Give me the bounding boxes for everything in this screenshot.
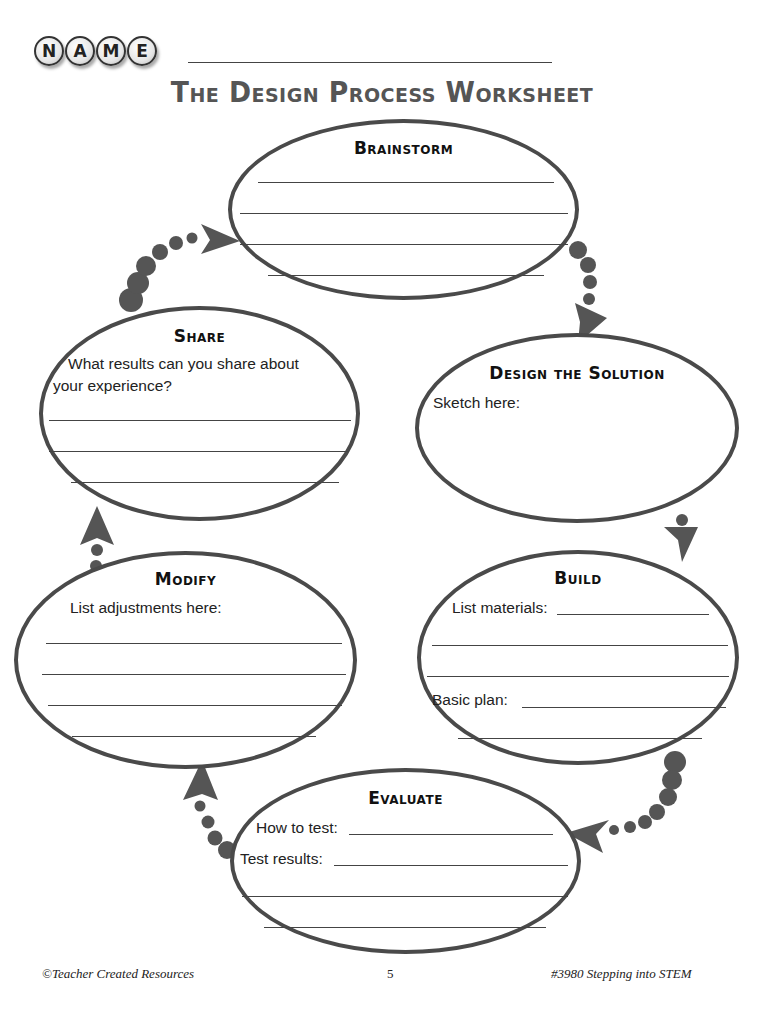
write-line[interactable] bbox=[48, 705, 342, 706]
write-line[interactable] bbox=[258, 182, 554, 183]
write-line[interactable] bbox=[72, 736, 316, 737]
bubble-title-modify: Modify bbox=[18, 569, 353, 589]
name-letter-m: M bbox=[96, 36, 126, 66]
name-letter-e: E bbox=[127, 36, 157, 66]
materials-line[interactable] bbox=[557, 614, 709, 615]
build-materials-label: List materials: bbox=[452, 599, 548, 617]
arrow-design-to-build-icon bbox=[664, 514, 698, 562]
bubble-brainstorm: Brainstorm bbox=[228, 119, 579, 300]
arrow-build-to-evaluate-icon bbox=[566, 751, 686, 853]
sketch-area[interactable] bbox=[439, 417, 719, 507]
bubble-title-build: Build bbox=[421, 568, 735, 588]
arrow-brainstorm-to-design-icon bbox=[569, 241, 607, 343]
write-line[interactable] bbox=[432, 645, 728, 646]
write-line[interactable] bbox=[427, 676, 729, 677]
write-line[interactable] bbox=[240, 244, 568, 245]
footer-book-title: #3980 Stepping into STEM bbox=[551, 966, 691, 982]
build-plan-label: Basic plan: bbox=[432, 691, 508, 709]
name-field-line[interactable] bbox=[188, 62, 552, 63]
write-line[interactable] bbox=[268, 275, 544, 276]
write-line[interactable] bbox=[264, 927, 546, 928]
bubble-title-design: Design the Solution bbox=[419, 363, 735, 383]
write-line[interactable] bbox=[49, 420, 351, 421]
write-line[interactable] bbox=[71, 482, 339, 483]
write-line[interactable] bbox=[42, 674, 346, 675]
bubble-share: Share What results can you share about y… bbox=[39, 306, 360, 521]
plan-line[interactable] bbox=[522, 707, 726, 708]
evaluate-results-label: Test results: bbox=[240, 850, 323, 868]
arrow-share-to-brainstorm-icon bbox=[119, 224, 240, 312]
test-results-line[interactable] bbox=[334, 865, 568, 866]
bubble-title-share: Share bbox=[43, 326, 356, 346]
how-to-test-line[interactable] bbox=[349, 834, 553, 835]
write-line[interactable] bbox=[242, 896, 568, 897]
footer-page-number: 5 bbox=[387, 966, 394, 982]
name-letter-a: A bbox=[65, 36, 95, 66]
bubble-title-evaluate: Evaluate bbox=[234, 788, 577, 808]
bubble-design-solution: Design the Solution Sketch here: bbox=[415, 333, 739, 523]
share-prompt-line1: What results can you share about bbox=[68, 355, 299, 373]
bubble-evaluate: Evaluate How to test: Test results: bbox=[230, 768, 581, 954]
write-line[interactable] bbox=[46, 643, 342, 644]
evaluate-how-label: How to test: bbox=[256, 819, 338, 837]
name-letter-n: N bbox=[34, 36, 64, 66]
write-line[interactable] bbox=[458, 738, 702, 739]
footer-copyright: ©Teacher Created Resources bbox=[42, 966, 194, 982]
write-line[interactable] bbox=[240, 213, 568, 214]
name-badges: N A M E bbox=[34, 36, 157, 66]
bubble-title-brainstorm: Brainstorm bbox=[232, 138, 575, 158]
design-prompt: Sketch here: bbox=[433, 394, 520, 412]
modify-prompt: List adjustments here: bbox=[70, 599, 222, 617]
write-line[interactable] bbox=[49, 451, 349, 452]
share-prompt-line2: your experience? bbox=[53, 377, 172, 395]
bubble-modify: Modify List adjustments here: bbox=[14, 551, 357, 769]
bubble-build: Build List materials: Basic plan: bbox=[417, 550, 739, 765]
arrow-evaluate-to-modify-icon bbox=[183, 760, 236, 859]
page-title: The Design Process Worksheet bbox=[19, 76, 745, 109]
